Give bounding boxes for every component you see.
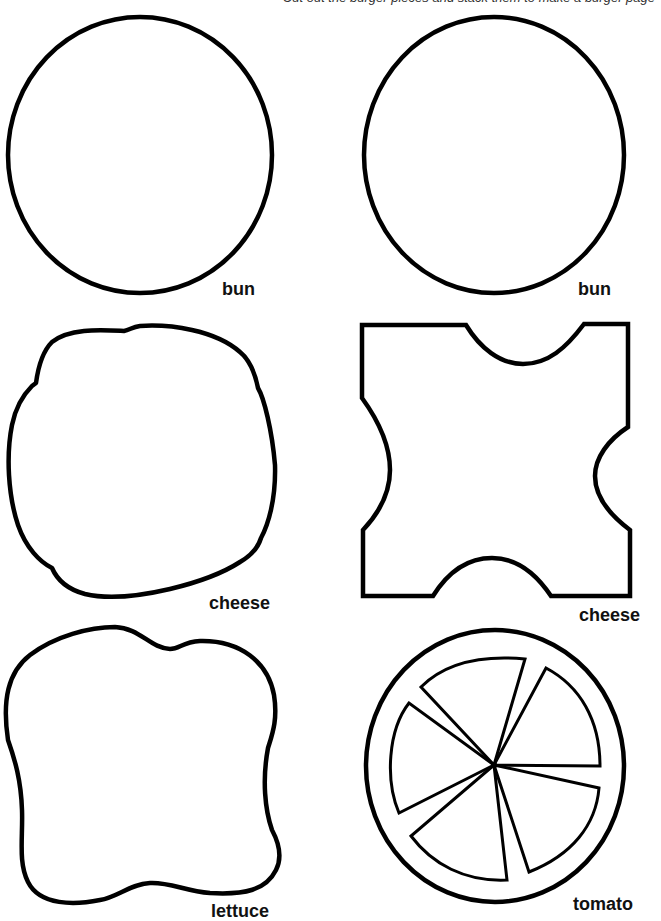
label-lettuce: lettuce [211,902,269,920]
bun-right-shape [364,17,624,293]
cheese-right-shape [362,324,630,596]
label-bun-left: bun [222,280,255,298]
bun-left-shape [8,17,272,293]
label-cheese-right: cheese [579,606,640,624]
label-bun-right: bun [578,280,611,298]
cheese-left-shape [9,326,275,597]
label-tomato: tomato [573,895,633,913]
burger-pieces-canvas [0,0,661,921]
lettuce-shape [6,627,280,903]
tomato-shape [366,630,624,902]
label-cheese-left: cheese [209,594,270,612]
